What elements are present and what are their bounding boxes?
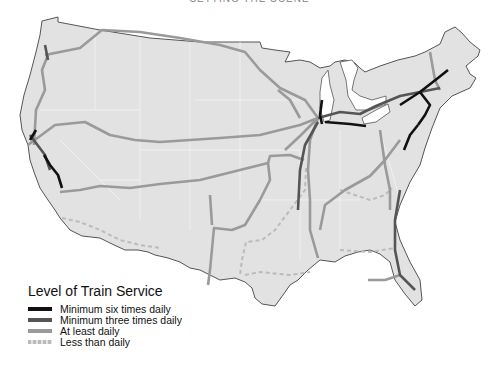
legend-swatch-black: [28, 307, 52, 311]
legend-swatch-dashed: [28, 340, 52, 344]
legend: Level of Train Service Minimum six times…: [28, 283, 182, 347]
legend-item-less-than-daily: Less than daily: [28, 336, 182, 347]
legend-swatch-gray: [28, 329, 52, 333]
legend-title: Level of Train Service: [28, 283, 182, 299]
us-outline: [20, 17, 480, 306]
legend-item-three-daily: Minimum three times daily: [28, 314, 182, 325]
legend-label: Less than daily: [60, 336, 130, 348]
legend-swatch-dark-gray: [28, 318, 52, 322]
legend-item-six-daily: Minimum six times daily: [28, 303, 182, 314]
legend-item-at-least-daily: At least daily: [28, 325, 182, 336]
